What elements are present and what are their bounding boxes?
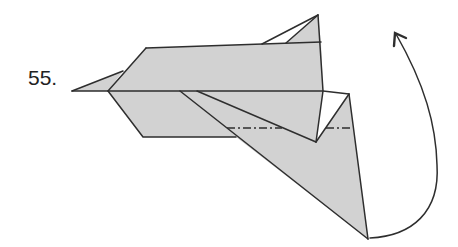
upper-body (108, 42, 323, 91)
fold-up-arrow (370, 33, 437, 238)
origami-step-diagram: 55. (0, 0, 458, 247)
paper-fills (72, 15, 368, 239)
curved-arrow-shaft (370, 34, 437, 238)
lower-body (108, 91, 368, 239)
arrow-head-icon (394, 33, 406, 46)
folding-diagram (0, 0, 458, 247)
